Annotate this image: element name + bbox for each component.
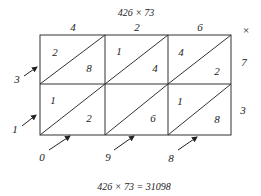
cell-tens: 1 bbox=[177, 96, 183, 107]
problem-title: 426 × 73 bbox=[118, 7, 155, 18]
cell-ones: 2 bbox=[214, 66, 220, 77]
grid-border bbox=[40, 35, 231, 135]
multiplier-digit: 7 bbox=[241, 57, 247, 68]
cell-diagonal bbox=[40, 84, 105, 135]
diagonal-sum: 8 bbox=[168, 153, 174, 164]
times-operator: × bbox=[243, 25, 249, 36]
multiplicand-digit: 6 bbox=[197, 22, 203, 33]
cell-ones: 6 bbox=[150, 113, 156, 124]
arrow-icon bbox=[114, 136, 134, 150]
diagonal-sum: 9 bbox=[105, 152, 111, 163]
cell-diagonal bbox=[40, 35, 105, 84]
multiplicand-digit: 2 bbox=[134, 22, 140, 33]
arrow-icon bbox=[22, 115, 36, 126]
cell-tens: 1 bbox=[50, 95, 56, 106]
cell-ones: 2 bbox=[86, 113, 92, 124]
diagonal-sum: 3 bbox=[14, 74, 20, 85]
cell-diagonal bbox=[105, 84, 168, 135]
cell-diagonal bbox=[168, 35, 231, 84]
cell-tens: 4 bbox=[178, 47, 184, 58]
cell-diagonal bbox=[168, 84, 231, 135]
cell-tens: 2 bbox=[52, 47, 58, 58]
diagonal-sum: 0 bbox=[39, 152, 45, 163]
cell-ones: 8 bbox=[86, 63, 92, 74]
cell-ones: 8 bbox=[214, 114, 220, 125]
lattice-grid bbox=[0, 0, 261, 196]
result-equation: 426 × 73 = 31098 bbox=[97, 181, 171, 192]
cell-diagonal bbox=[105, 35, 168, 84]
multiplier-digit: 3 bbox=[240, 105, 246, 116]
multiplicand-digit: 4 bbox=[70, 22, 76, 33]
arrow-icon bbox=[178, 137, 197, 150]
cell-tens: 1 bbox=[116, 46, 122, 57]
cell-ones: 4 bbox=[152, 63, 158, 74]
diagonal-sum: 1 bbox=[12, 124, 18, 135]
arrow-icon bbox=[49, 136, 70, 150]
arrow-icon bbox=[24, 67, 37, 76]
